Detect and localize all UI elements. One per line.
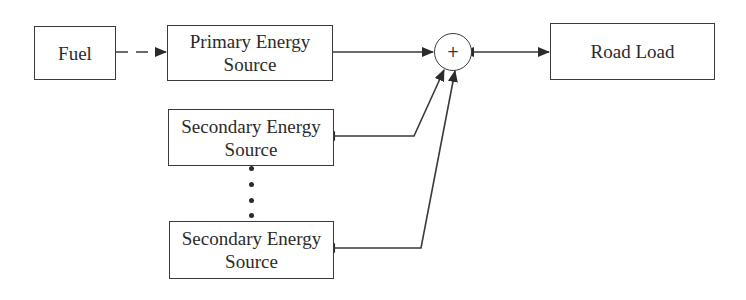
primary-energy-source-box: Primary Energy Source bbox=[167, 25, 333, 81]
fuel-box: Fuel bbox=[34, 26, 116, 80]
secondary-energy-source-1-box: Secondary Energy Source bbox=[168, 109, 334, 166]
secondary-n-label-line2: Source bbox=[182, 250, 321, 273]
summing-junction: + bbox=[434, 33, 472, 71]
ellipsis-dot bbox=[249, 182, 254, 187]
secondary-n-sum-arrow bbox=[334, 71, 455, 248]
secondary-1-label-line2: Source bbox=[181, 138, 320, 161]
road-load-box: Road Load bbox=[550, 23, 715, 80]
ellipsis-dot bbox=[249, 166, 254, 171]
primary-label-line1: Primary Energy bbox=[190, 30, 311, 53]
secondary-1-label-line1: Secondary Energy bbox=[181, 115, 320, 138]
ellipsis-dot bbox=[249, 213, 254, 218]
primary-label-line2: Source bbox=[190, 53, 311, 76]
secondary-n-label-line1: Secondary Energy bbox=[182, 227, 321, 250]
ellipsis-dot bbox=[249, 198, 254, 203]
secondary-1-sum-arrow bbox=[334, 70, 444, 136]
secondary-energy-source-n-box: Secondary Energy Source bbox=[169, 221, 334, 279]
fuel-label: Fuel bbox=[58, 42, 92, 65]
plus-icon: + bbox=[447, 43, 460, 61]
road-load-label: Road Load bbox=[591, 40, 675, 63]
